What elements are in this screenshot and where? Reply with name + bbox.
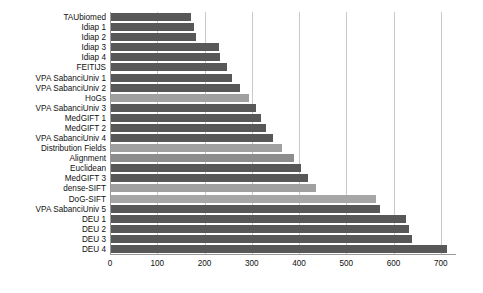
bar[interactable] (110, 104, 256, 112)
bar[interactable] (110, 74, 232, 82)
bar[interactable] (110, 144, 282, 152)
x-axis-tick-labels: 0100200300400500600700 (0, 258, 483, 276)
x-axis-tick-label: 500 (339, 258, 353, 270)
x-axis-tick-label: 200 (198, 258, 212, 270)
bar[interactable] (110, 174, 308, 182)
bar[interactable] (110, 154, 294, 162)
bar[interactable] (110, 84, 240, 92)
bar[interactable] (110, 124, 266, 132)
bar[interactable] (110, 235, 412, 243)
x-axis-tick-label: 100 (150, 258, 164, 270)
plot-area (110, 12, 455, 254)
bar[interactable] (110, 23, 194, 31)
x-axis-tick-label: 300 (245, 258, 259, 270)
bar[interactable] (110, 43, 219, 51)
y-axis-category-labels: TAUbiomedIdiap 1Idiap 2Idiap 3Idiap 4FEI… (0, 12, 106, 254)
bar-chart: TAUbiomedIdiap 1Idiap 2Idiap 3Idiap 4FEI… (0, 0, 483, 293)
bars-container (110, 12, 455, 254)
x-axis-line (110, 254, 456, 255)
x-axis-tick-label: 400 (292, 258, 306, 270)
bar[interactable] (110, 205, 380, 213)
bar[interactable] (110, 53, 220, 61)
x-axis-tick-label: 700 (434, 258, 448, 270)
x-axis-tick-label: 600 (387, 258, 401, 270)
bar[interactable] (110, 164, 301, 172)
bar[interactable] (110, 33, 196, 41)
bar[interactable] (110, 215, 406, 223)
bar[interactable] (110, 225, 409, 233)
bar[interactable] (110, 63, 227, 71)
bar[interactable] (110, 134, 273, 142)
y-axis-label: DEU 4 (0, 244, 106, 255)
bar[interactable] (110, 13, 191, 21)
bar[interactable] (110, 195, 376, 203)
y-axis-line (110, 12, 111, 254)
x-axis-tick-label: 0 (108, 258, 113, 270)
bar[interactable] (110, 184, 316, 192)
bar[interactable] (110, 94, 249, 102)
bar[interactable] (110, 245, 447, 253)
bar[interactable] (110, 114, 261, 122)
